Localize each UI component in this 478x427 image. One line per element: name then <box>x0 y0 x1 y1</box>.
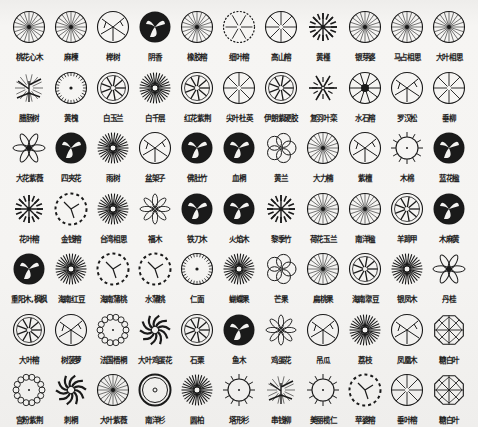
fan-spoke-circle-icon <box>12 10 46 44</box>
tick-circle-icon <box>180 252 214 286</box>
dark-filled-circle-icon <box>54 131 88 165</box>
fan-spoke-circle-icon <box>54 10 88 44</box>
symbol-row: 宫粉紫荆刺桐大叶紫薇南洋杉圆柏塔形杉串钱柳美丽榄仁苹婆榕垂叶榕糖白叶 <box>8 373 470 427</box>
dashed-circle-icon <box>348 373 382 407</box>
symbol-row: 大花紫薇四夹花雨树盆架子佛肚竹血桐黄兰大力楠紫檀木棉蓝花楹 <box>8 131 470 191</box>
plant-symbol: 丹桂 <box>428 252 470 310</box>
wheel-circle-icon <box>96 71 130 105</box>
plant-symbol: 垂柳 <box>428 71 470 129</box>
sunburst-icon <box>138 71 172 105</box>
symbol-row: 花叶榕金钱榕台湾相思福木铁刀木火焰木黎季竹荷花玉兰南洋楹羊蹄甲木麻黄 <box>8 192 470 252</box>
sunburst-icon <box>54 252 88 286</box>
branch-cluster-icon <box>264 192 298 226</box>
spiked-circle-icon <box>222 373 256 407</box>
tick-circle-icon <box>54 71 88 105</box>
symbol-row: 腊肠树黄槐白玉兰白千层红花紫荆尖叶杜英伊朗紫硬胶复羽叶栾水石榕罗汉松垂柳 <box>8 71 470 131</box>
plant-label: 丹桂 <box>422 293 476 304</box>
fan-spoke-circle-icon <box>306 131 340 165</box>
pinwheel-icon <box>54 373 88 407</box>
branch-circle-icon <box>306 313 340 347</box>
plant-symbol: 蓝花楹 <box>428 131 470 189</box>
dark-filled-circle-icon <box>180 192 214 226</box>
wheel-circle-icon <box>12 313 46 347</box>
fan-spoke-circle-icon <box>432 10 466 44</box>
pine-branch-icon <box>264 373 298 407</box>
fan-spoke-circle-icon <box>306 192 340 226</box>
fan-spoke-circle-icon <box>306 252 340 286</box>
plant-label: 糖白叶 <box>422 354 476 365</box>
sunburst-icon <box>96 192 130 226</box>
dark-filled-circle-icon <box>222 313 256 347</box>
dotted-branch-circle-icon <box>222 10 256 44</box>
six-petal-star-icon <box>432 252 466 286</box>
sunburst-icon <box>348 313 382 347</box>
branch-cluster-icon <box>12 192 46 226</box>
branch-circle-icon <box>390 313 424 347</box>
petal-outline-icon <box>264 313 298 347</box>
plant-label: 木麻黄 <box>422 233 476 244</box>
fan-spoke-circle-icon <box>348 192 382 226</box>
five-petal-flower-icon <box>264 252 298 286</box>
symbol-row: 重阳木,枫枫海南红豆海南蒲桃水蒲桃仁面蝴蝶果芒果扁桃果海南翠豆银凤木丹桂 <box>8 252 470 312</box>
six-petal-star-icon <box>12 131 46 165</box>
dashed-circle-icon <box>96 252 130 286</box>
spoke-circle-icon <box>222 71 256 105</box>
scalloped-circle-icon <box>12 373 46 407</box>
wheel-circle-icon <box>180 71 214 105</box>
branch-circle-icon <box>138 131 172 165</box>
ring-circle-icon <box>138 373 172 407</box>
plant-label: 大叶相思 <box>422 51 476 62</box>
wheel-circle-icon <box>180 313 214 347</box>
petal-outline-icon <box>138 192 172 226</box>
sunburst-icon <box>96 131 130 165</box>
wheel-circle-icon <box>264 71 298 105</box>
sunburst-icon <box>390 252 424 286</box>
branch-cluster-icon <box>306 10 340 44</box>
spoke-circle-icon <box>390 373 424 407</box>
fan-spoke-circle-icon <box>348 10 382 44</box>
symbol-sheet: 桃花心木麻楝榉树阴香橡胶榕细叶榕高山榕黄槿银芽婆马占相思大叶相思腊肠树黄槐白玉兰… <box>0 0 478 427</box>
octagon-icon <box>432 373 466 407</box>
plant-label: 蓝花楹 <box>422 172 476 183</box>
wheel-circle-icon <box>348 252 382 286</box>
dashed-circle-icon <box>138 252 172 286</box>
plant-label: 糖白叶 <box>422 414 476 425</box>
wheel-circle-icon <box>390 192 424 226</box>
plant-symbol: 大叶相思 <box>428 10 470 68</box>
dashed-circle-icon <box>54 192 88 226</box>
branch-circle-icon <box>348 131 382 165</box>
fan-spoke-circle-icon <box>96 373 130 407</box>
branch-circle-icon <box>96 10 130 44</box>
plant-symbol: 糖白叶 <box>428 313 470 371</box>
five-petal-flower-icon <box>264 131 298 165</box>
branch-circle-icon <box>54 313 88 347</box>
dark-filled-circle-icon <box>138 10 172 44</box>
dark-filled-circle-icon <box>432 192 466 226</box>
dark-filled-circle-icon <box>12 252 46 286</box>
dark-filled-circle-icon <box>222 131 256 165</box>
plant-symbol: 木麻黄 <box>428 192 470 250</box>
dark-filled-circle-icon <box>222 192 256 226</box>
octagon-icon <box>432 313 466 347</box>
snowflake-icon <box>306 71 340 105</box>
symbol-row: 大叶榕树菠萝法国梧桐大叶鸡蛋花石栗鱼木鸡蛋花吊瓜荔枝凤凰木糖白叶 <box>8 313 470 373</box>
sunburst-icon <box>222 252 256 286</box>
branch-circle-icon <box>390 71 424 105</box>
fan-spoke-circle-icon <box>390 10 424 44</box>
sunburst-icon <box>180 373 214 407</box>
fan-spoke-circle-icon <box>180 10 214 44</box>
symbol-row: 桃花心木麻楝榉树阴香橡胶榕细叶榕高山榕黄槿银芽婆马占相思大叶相思 <box>8 10 470 70</box>
plant-symbol: 糖白叶 <box>428 373 470 427</box>
star-circle-icon <box>348 71 382 105</box>
spiked-circle-icon <box>306 373 340 407</box>
spiked-circle-icon <box>390 131 424 165</box>
spoke-circle-icon <box>264 10 298 44</box>
dark-filled-circle-icon <box>180 131 214 165</box>
scalloped-circle-icon <box>96 313 130 347</box>
spoke-circle-icon <box>432 71 466 105</box>
pine-branch-icon <box>12 71 46 105</box>
plant-label: 垂柳 <box>422 112 476 123</box>
dark-filled-circle-icon <box>432 131 466 165</box>
pinwheel-icon <box>138 313 172 347</box>
